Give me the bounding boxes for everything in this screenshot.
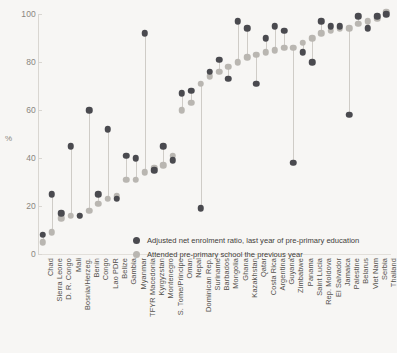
x-axis-label: D. R. Congo [64,258,73,300]
data-point-enrolment [225,76,232,83]
data-point-attended [188,100,195,107]
data-point-enrolment [374,13,381,20]
data-point-attended [197,80,204,87]
data-point-enrolment [169,157,176,164]
data-point-enrolment [39,232,46,239]
data-point-enrolment [300,49,307,56]
x-axis-label: Viet Nam [371,258,380,289]
data-point-enrolment [188,88,195,95]
x-axis-label: Belarus [361,258,370,284]
x-axis-label: Bosnia/Herzeg. [83,258,92,310]
data-point-attended [244,54,251,61]
connector-stem [52,194,53,232]
y-tick-label: 80 [0,57,36,67]
data-point-enrolment [318,18,325,25]
x-axis-label: Serbia [380,258,389,280]
connector-stem [201,84,202,209]
data-point-enrolment [179,90,186,97]
data-point-enrolment [197,205,204,212]
x-axis-label: Chad [46,258,55,276]
data-point-enrolment [114,196,121,203]
connector-stem [145,33,146,172]
data-point-attended [179,107,186,114]
data-point-enrolment [290,160,297,167]
x-axis-label: S. Tome/Principe [176,258,185,315]
x-axis-label: Montenegro [166,258,175,298]
data-point-enrolment [216,56,223,63]
data-point-attended [272,47,279,54]
data-point-enrolment [77,212,84,219]
x-axis-label: Lao PDR [111,258,120,289]
data-point-enrolment [272,23,279,30]
data-point-attended [67,212,74,219]
data-point-enrolment [327,23,334,30]
connector-stem [293,48,294,163]
data-point-attended [253,52,260,59]
data-point-attended [216,68,223,75]
data-point-attended [281,44,288,51]
legend-swatch-icon [133,251,140,258]
data-point-enrolment [67,143,74,150]
data-point-enrolment [365,25,372,32]
y-tick-label: 60 [0,105,36,115]
y-tick-label: 0 [0,249,36,259]
data-point-enrolment [86,107,93,114]
connector-stem [71,146,72,216]
data-point-attended [132,176,139,183]
connector-stem [108,129,109,199]
data-point-enrolment [346,112,353,119]
plot-area [38,14,391,254]
data-point-enrolment [95,191,102,198]
data-point-enrolment [104,126,111,133]
legend-item[interactable]: Attended pre-primary school the previous… [133,250,359,259]
data-point-attended [104,196,111,203]
data-point-enrolment [49,191,56,198]
x-axis-label: TFYR Macedonia [148,258,157,317]
data-point-attended [262,49,269,56]
connector-stem [247,28,248,57]
chart-root: % 020406080100 ChadSierra LeoneD. R. Con… [0,0,397,353]
data-point-attended [309,35,316,42]
data-point-enrolment [383,11,390,18]
connector-stem [349,28,350,114]
x-axis-label: Sierra Leone [55,258,64,302]
y-tick-label: 100 [0,9,36,19]
data-point-enrolment [309,59,316,66]
x-axis-label: Mali [74,258,83,272]
connector-stem [238,21,239,62]
data-point-attended [355,20,362,27]
legend-swatch-icon [133,237,140,244]
data-point-enrolment [355,13,362,20]
x-axis-label: Rep. Moldova [324,258,333,305]
data-point-attended [234,59,241,66]
x-axis-label: Thailand [389,258,397,287]
x-axis-label: Dominican Rep. [204,258,213,312]
data-point-enrolment [262,35,269,42]
x-axis-label: Belize [120,258,129,279]
data-point-attended [365,18,372,25]
data-point-attended [86,208,93,215]
data-point-enrolment [123,152,130,159]
y-tick-mark [38,254,42,255]
data-point-attended [95,200,102,207]
connector-stem [89,110,90,211]
x-axis-label: Benin [92,258,101,277]
data-point-attended [142,169,149,176]
data-point-attended [225,64,232,71]
legend-item[interactable]: Adjusted net enrolment ratio, last year … [133,236,359,245]
data-point-enrolment [253,80,260,87]
x-axis-label: Congo [101,258,110,280]
data-point-attended [300,40,307,47]
y-tick-label: 40 [0,153,36,163]
data-point-enrolment [207,68,214,75]
y-axis-title: % [5,134,12,143]
legend-label: Attended pre-primary school the previous… [147,250,303,259]
data-point-attended [39,239,46,246]
data-point-enrolment [132,155,139,162]
data-point-attended [49,229,56,236]
data-point-enrolment [142,30,149,37]
data-point-attended [160,162,167,169]
data-point-enrolment [281,28,288,35]
data-point-enrolment [160,143,167,150]
data-point-enrolment [58,210,65,217]
